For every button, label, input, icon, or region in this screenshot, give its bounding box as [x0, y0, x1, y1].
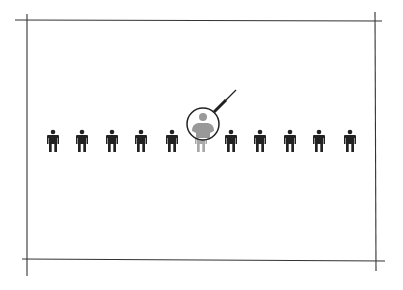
person-icon [225, 130, 237, 152]
frame-top-line [15, 20, 382, 21]
person-icon [47, 130, 59, 152]
person-icon [135, 130, 147, 152]
frame-bottom-line [22, 259, 385, 261]
person-icon [344, 130, 356, 152]
person-icon [106, 130, 118, 152]
person-icon [166, 130, 178, 152]
illustration-canvas [0, 0, 403, 290]
person-icon [313, 130, 325, 152]
magnifying-glass-icon [187, 90, 236, 140]
person-icon [254, 130, 266, 152]
frame-right-line [375, 12, 376, 271]
person-icon [284, 130, 296, 152]
person-icon [76, 130, 88, 152]
